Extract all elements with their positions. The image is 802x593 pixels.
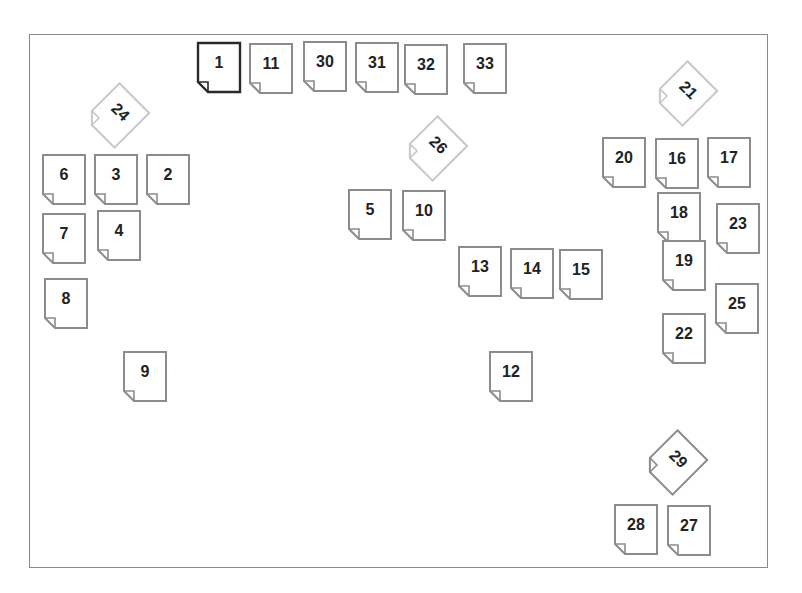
page-thumbnail-5[interactable]: 5 (348, 189, 392, 240)
page-number: 33 (463, 55, 507, 73)
page-number: 28 (614, 516, 658, 534)
page-thumbnail-11[interactable]: 11 (249, 43, 293, 94)
page-number: 6 (42, 166, 86, 184)
page-thumbnail-1[interactable]: 1 (197, 42, 241, 93)
page-thumbnail-13[interactable]: 13 (458, 246, 502, 297)
page-number: 11 (249, 55, 293, 73)
page-number: 5 (348, 201, 392, 219)
page-thumbnail-23[interactable]: 23 (716, 203, 760, 254)
page-thumbnail-28[interactable]: 28 (614, 504, 658, 555)
page-thumbnail-31[interactable]: 31 (355, 42, 399, 93)
page-thumbnail-20[interactable]: 20 (602, 137, 646, 188)
page-thumbnail-16[interactable]: 16 (655, 138, 699, 189)
page-number: 10 (402, 202, 446, 220)
page-number: 16 (655, 150, 699, 168)
page-number: 27 (667, 517, 711, 535)
page-number: 8 (44, 290, 88, 308)
page-thumbnail-15[interactable]: 15 (559, 249, 603, 300)
page-number: 25 (715, 295, 759, 313)
page-number: 20 (602, 149, 646, 167)
page-thumbnail-17[interactable]: 17 (707, 137, 751, 188)
page-thumbnail-27[interactable]: 27 (667, 505, 711, 556)
page-number: 7 (42, 225, 86, 243)
page-number: 1 (197, 54, 241, 72)
page-thumbnail-8[interactable]: 8 (44, 278, 88, 329)
page-number: 17 (707, 149, 751, 167)
page-thumbnail-18[interactable]: 18 (657, 192, 701, 243)
page-thumbnail-12[interactable]: 12 (489, 351, 533, 402)
page-thumbnail-7[interactable]: 7 (42, 213, 86, 264)
page-number: 2 (146, 166, 190, 184)
page-number: 23 (716, 215, 760, 233)
page-thumbnail-19[interactable]: 19 (662, 240, 706, 291)
page-number: 31 (355, 54, 399, 72)
page-thumbnail-30[interactable]: 30 (303, 41, 347, 92)
page-thumbnail-10[interactable]: 10 (402, 190, 446, 241)
page-number: 19 (662, 252, 706, 270)
page-number: 22 (662, 325, 706, 343)
page-thumbnail-2[interactable]: 2 (146, 154, 190, 205)
page-thumbnail-33[interactable]: 33 (463, 43, 507, 94)
page-number: 12 (489, 363, 533, 381)
page-number: 30 (303, 53, 347, 71)
page-thumbnail-6[interactable]: 6 (42, 154, 86, 205)
page-number: 13 (458, 258, 502, 276)
page-number: 9 (123, 363, 167, 381)
page-number: 3 (94, 166, 138, 184)
page-number: 14 (510, 260, 554, 278)
page-number: 18 (657, 204, 701, 222)
page-thumbnail-25[interactable]: 25 (715, 283, 759, 334)
page-thumbnail-14[interactable]: 14 (510, 248, 554, 299)
page-thumbnail-4[interactable]: 4 (97, 210, 141, 261)
page-number: 15 (559, 261, 603, 279)
page-thumbnail-22[interactable]: 22 (662, 313, 706, 364)
page-thumbnail-3[interactable]: 3 (94, 154, 138, 205)
page-number: 4 (97, 222, 141, 240)
page-number: 32 (404, 56, 448, 74)
page-thumbnail-32[interactable]: 32 (404, 44, 448, 95)
page-thumbnail-9[interactable]: 9 (123, 351, 167, 402)
